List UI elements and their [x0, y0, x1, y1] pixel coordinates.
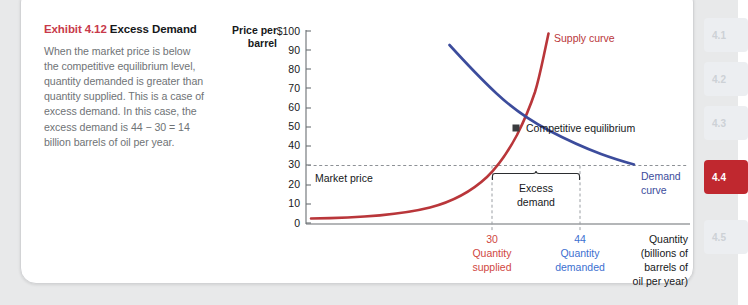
y-axis-title-line1: Price per: [205, 24, 277, 37]
tab-4-5[interactable]: 4.5: [704, 220, 748, 254]
tab-4-1[interactable]: 4.1: [704, 18, 748, 52]
chapter-tab-strip: 4.1 4.2 4.3 4.4 4.5: [692, 0, 738, 305]
tab-4-5-label: 4.5: [712, 232, 726, 243]
tab-4-2[interactable]: 4.2: [704, 62, 748, 96]
tab-4-3[interactable]: 4.3: [704, 106, 748, 140]
exhibit-heading: Exhibit 4.12 Excess Demand: [44, 22, 204, 37]
y-axis-title: Price per barrel: [205, 24, 277, 50]
tab-4-4[interactable]: 4.4: [704, 160, 748, 194]
tab-4-3-label: 4.3: [712, 118, 726, 129]
exhibit-caption-column: Exhibit 4.12 Excess Demand When the mark…: [44, 22, 204, 150]
exhibit-body-text: When the market price is below the compe…: [44, 44, 204, 150]
exhibit-number: Exhibit 4.12: [44, 23, 107, 35]
y-axis-title-line2: barrel: [205, 37, 277, 50]
tab-4-1-label: 4.1: [712, 30, 726, 41]
tab-4-2-label: 4.2: [712, 74, 726, 85]
exhibit-title: Excess Demand: [110, 23, 197, 35]
tab-4-4-label: 4.4: [712, 172, 726, 183]
